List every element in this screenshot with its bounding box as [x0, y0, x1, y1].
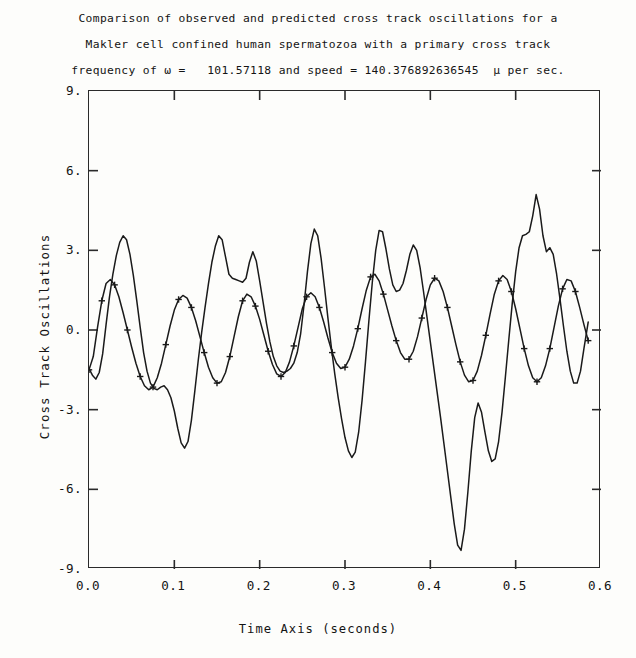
x-tick-label: 0.5: [480, 578, 550, 593]
title-line-1: Comparison of observed and predicted cro…: [0, 6, 636, 32]
plot-area: [88, 90, 600, 568]
chart-page: Comparison of observed and predicted cro…: [0, 0, 636, 658]
y-tick-label: 6.: [36, 162, 82, 177]
y-tick-label: 9.: [36, 83, 82, 98]
axis-ticks: [89, 91, 601, 569]
x-axis-tick-labels: 0.00.10.20.30.40.50.6: [88, 578, 600, 600]
y-tick-label: -6.: [36, 481, 82, 496]
x-tick-label: 0.0: [53, 578, 123, 593]
x-tick-label: 0.3: [309, 578, 379, 593]
x-tick-label: 0.4: [394, 578, 464, 593]
plot-svg: [89, 91, 601, 569]
data-series-layer: [89, 195, 591, 551]
x-tick-label: 0.2: [224, 578, 294, 593]
x-axis-title: Time Axis (seconds): [0, 622, 636, 636]
x-tick-label: 0.1: [138, 578, 208, 593]
chart-title: Comparison of observed and predicted cro…: [0, 6, 636, 84]
x-tick-label: 0.6: [565, 578, 635, 593]
series-markers-predicted: [89, 274, 591, 391]
title-line-3: frequency of ω = 101.57118 and speed = 1…: [0, 58, 636, 84]
y-tick-label: -9.: [36, 561, 82, 576]
y-axis-title: Cross Track Oscillations: [37, 207, 52, 467]
series-line-observed: [89, 195, 588, 551]
title-line-2: Makler cell confined human spermatozoa w…: [0, 32, 636, 58]
